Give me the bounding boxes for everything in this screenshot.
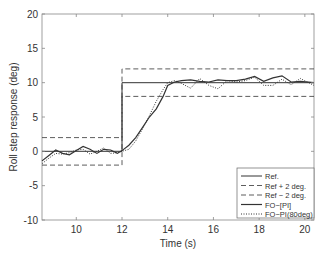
y-tick-label: 5 [32,112,38,123]
y-tick-label: -5 [29,180,38,191]
legend-label-0: Ref. [265,172,279,181]
legend: Ref.Ref + 2 deg.Ref − 2 deg.FO−[PI]FO−PI… [237,168,314,219]
y-tick-label: 0 [32,146,38,157]
x-tick-label: 20 [299,224,311,235]
y-axis-label: Roll step response (deg) [8,63,19,172]
legend-label-3: FO−[PI] [265,201,291,210]
y-tick-label: 15 [27,43,39,54]
y-tick-label: 10 [27,77,39,88]
x-tick-label: 16 [208,224,220,235]
x-tick-label: 14 [162,224,174,235]
roll-step-response-chart: 101214161820 -10-505101520 Time (s) Roll… [0,0,320,254]
x-axis-label: Time (s) [160,238,196,249]
y-tick-label: 20 [27,9,39,20]
legend-label-1: Ref + 2 deg. [265,182,306,191]
x-tick-label: 12 [116,224,128,235]
legend-label-4: FO−PI(80deg) [265,210,313,219]
y-tick-label: -10 [24,215,39,226]
x-tick-label: 18 [254,224,266,235]
x-tick-label: 10 [71,224,83,235]
legend-label-2: Ref − 2 deg. [265,191,306,200]
